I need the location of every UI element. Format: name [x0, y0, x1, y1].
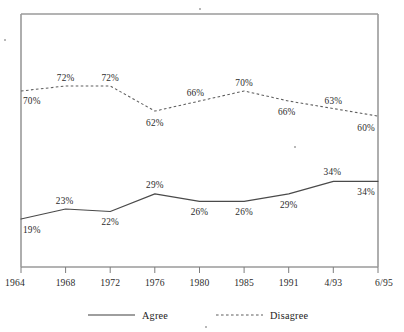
data-label: 34% — [357, 187, 375, 197]
data-label: 72% — [57, 73, 75, 83]
chart-legend: Agree Disagree — [88, 310, 308, 321]
data-label: 66% — [187, 88, 205, 98]
line-chart: 70%72%72%62%66%70%66%63%60% 19%23%22%29%… — [0, 0, 404, 332]
data-label: 26% — [191, 207, 209, 217]
x-axis-tick-label: 6/95 — [375, 277, 393, 288]
scan-speck — [294, 146, 296, 148]
plot-frame — [21, 14, 378, 267]
data-label: 70% — [235, 78, 253, 88]
x-axis-tick-label: 1968 — [56, 277, 76, 288]
data-label: 66% — [278, 107, 296, 117]
x-axis-tick-label: 1980 — [190, 277, 210, 288]
x-axis-tick-label: 4/93 — [324, 277, 342, 288]
data-label: 23% — [56, 196, 74, 206]
x-axis-tick-labels: 19641968197219761980198519914/936/95 — [5, 277, 393, 288]
data-label: 29% — [280, 200, 298, 210]
scan-speck — [205, 326, 207, 328]
x-axis-tick-label: 1985 — [234, 277, 254, 288]
data-label: 19% — [23, 225, 41, 235]
x-axis-tick-label: 1976 — [145, 277, 165, 288]
scan-speck — [199, 8, 201, 10]
x-axis-tick-label: 1991 — [279, 277, 299, 288]
data-label: 72% — [101, 73, 119, 83]
legend-label-disagree: Disagree — [270, 310, 308, 321]
data-label: 22% — [101, 217, 119, 227]
x-axis-ticks — [21, 267, 378, 273]
data-label: 63% — [325, 96, 343, 106]
x-axis-tick-label: 1972 — [100, 277, 120, 288]
chart-canvas: 70%72%72%62%66%70%66%63%60% 19%23%22%29%… — [0, 0, 404, 332]
data-label: 60% — [357, 123, 375, 133]
data-label: 29% — [146, 180, 164, 190]
x-axis-tick-label: 1964 — [5, 277, 25, 288]
data-label: 70% — [23, 96, 41, 106]
scan-speck — [4, 39, 6, 41]
data-label: 62% — [146, 118, 164, 128]
data-label: 34% — [324, 167, 342, 177]
data-label: 26% — [235, 207, 253, 217]
data-labels-disagree: 70%72%72%62%66%70%66%63%60% — [23, 73, 375, 133]
legend-label-agree: Agree — [142, 310, 168, 321]
